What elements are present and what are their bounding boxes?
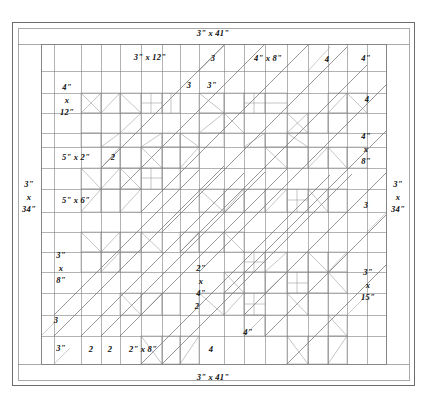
quilt-line-art xyxy=(0,0,427,402)
quilt-diagram-stage: 3" x 41"3" x 41"3" x 12"34" x 8"44"4"x12… xyxy=(0,0,427,402)
